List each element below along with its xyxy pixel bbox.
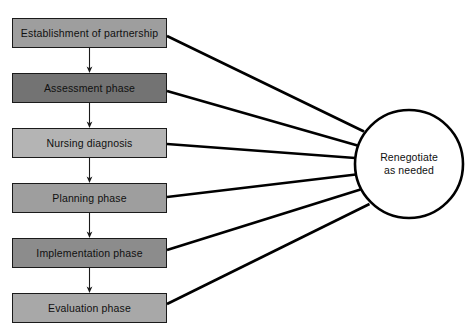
renegotiate-label-line-1: Renegotiate xyxy=(359,151,459,164)
renegotiate-label-line-2: as needed xyxy=(359,164,459,177)
phase-box-implementation-phase[interactable]: Implementation phase xyxy=(12,238,167,268)
phase-box-label: Planning phase xyxy=(52,193,127,204)
phase-box-nursing-diagnosis[interactable]: Nursing diagnosis xyxy=(12,128,167,158)
connector-planning-to-circle xyxy=(167,175,356,198)
phase-box-label: Assessment phase xyxy=(44,83,135,94)
phase-box-assessment-phase[interactable]: Assessment phase xyxy=(12,73,167,103)
phase-box-label: Evaluation phase xyxy=(48,303,131,314)
connector-group xyxy=(167,36,370,304)
phase-box-planning-phase[interactable]: Planning phase xyxy=(12,183,167,213)
phase-box-establishment-of-partnership[interactable]: Establishment of partnership xyxy=(12,18,167,48)
process-flow-diagram: Establishment of partnership Assessment … xyxy=(0,0,475,327)
phase-box-evaluation-phase[interactable]: Evaluation phase xyxy=(12,293,167,323)
renegotiate-circle-label: Renegotiate as needed xyxy=(359,151,459,177)
connector-implementation-to-circle xyxy=(167,190,361,251)
phase-box-label: Implementation phase xyxy=(36,248,142,259)
connector-nursing-to-circle xyxy=(167,144,355,158)
phase-box-label: Nursing diagnosis xyxy=(46,138,132,149)
connector-establishment-to-circle xyxy=(167,36,364,132)
connector-assessment-to-circle xyxy=(167,91,358,146)
phase-box-label: Establishment of partnership xyxy=(21,28,158,39)
